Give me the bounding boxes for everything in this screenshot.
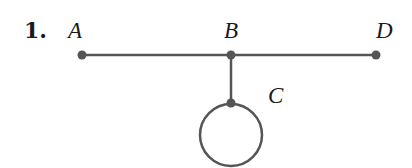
label-b: B [224,18,238,43]
loop-c [200,104,262,166]
label-c: C [268,83,284,108]
graph-diagram: 1. A B D C [0,0,412,168]
vertex-a [78,51,87,60]
vertex-b [227,51,236,60]
vertex-c [227,99,236,108]
label-d: D [375,18,393,43]
problem-number: 1. [24,17,47,43]
vertex-d [372,51,381,60]
label-a: A [66,18,83,43]
